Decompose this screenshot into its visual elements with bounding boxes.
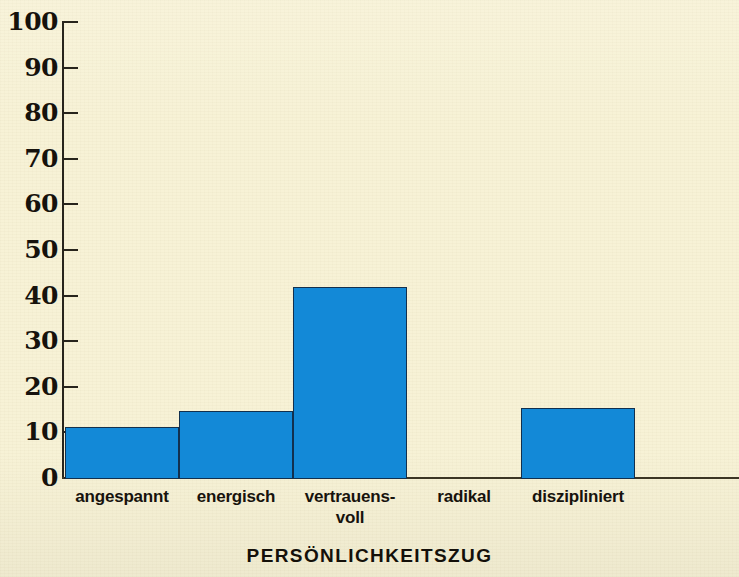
y-axis-tick-label: 0 <box>2 465 58 490</box>
x-axis-category-label: vertrauens-voll <box>285 486 415 528</box>
x-axis-category-label-line: energisch <box>171 486 301 507</box>
y-axis-tick-label: 50 <box>2 237 58 262</box>
bar-diszipliniert <box>521 408 635 479</box>
x-axis-category-label-line: radikal <box>399 486 529 507</box>
x-axis-category-label: energisch <box>171 486 301 507</box>
x-axis-category-label-line: diszipliniert <box>513 486 643 507</box>
x-axis-category-label-line: vertrauens- <box>285 486 415 507</box>
y-axis-tick-label: 10 <box>2 419 58 444</box>
x-axis-category-label: angespannt <box>57 486 187 507</box>
y-axis-tick-label: 20 <box>2 374 58 399</box>
x-axis-category-label-line: voll <box>285 507 415 528</box>
y-axis-tick-label: 60 <box>2 191 58 216</box>
x-axis-category-label: diszipliniert <box>513 486 643 507</box>
bar-energisch <box>179 411 293 479</box>
x-axis-title: PERSÖNLICHKEITSZUG <box>0 545 739 567</box>
y-axis-tick-label: 40 <box>2 283 58 308</box>
bar-angespannt <box>65 427 179 479</box>
y-axis-tick-label: 90 <box>2 55 58 80</box>
y-axis-tick-label: 70 <box>2 146 58 171</box>
plot-area <box>62 22 739 479</box>
x-axis-category-label: radikal <box>399 486 529 507</box>
x-axis-category-label-line: angespannt <box>57 486 187 507</box>
bar-chart: 0102030405060708090100 angespanntenergis… <box>0 0 739 577</box>
y-axis-tick-label: 100 <box>2 9 58 34</box>
y-axis-tick-label: 30 <box>2 328 58 353</box>
bar-vertrauens-voll <box>293 287 407 479</box>
y-axis-tick-label: 80 <box>2 100 58 125</box>
